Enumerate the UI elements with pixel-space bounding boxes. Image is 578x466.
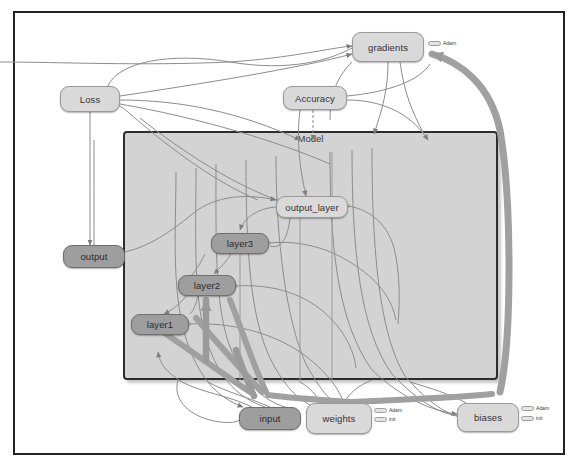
node-weights[interactable]: weights — [306, 403, 372, 434]
graph-edges — [0, 0, 578, 466]
node-label: layer2 — [194, 280, 220, 291]
annotation-label: Adam — [389, 408, 402, 413]
pill-icon — [428, 41, 441, 46]
node-label: weights — [323, 413, 356, 424]
annotation-biases-init[interactable]: init — [521, 416, 542, 421]
annotation-biases-adam[interactable]: Adam — [521, 406, 549, 411]
node-label: biases — [474, 412, 502, 423]
node-label: Loss — [80, 94, 100, 105]
pill-icon — [521, 406, 534, 411]
pill-icon — [374, 417, 387, 422]
node-gradients[interactable]: gradients — [352, 32, 424, 62]
annotation-gradients-adam[interactable]: Adam — [428, 41, 456, 46]
node-label: layer1 — [147, 319, 173, 330]
pill-icon — [521, 416, 534, 421]
node-label: gradients — [368, 42, 408, 53]
node-output-layer[interactable]: output_layer — [276, 196, 348, 218]
annotation-weights-init[interactable]: init — [374, 417, 395, 422]
node-layer3[interactable]: layer3 — [211, 233, 269, 254]
node-input[interactable]: input — [239, 407, 301, 430]
annotation-weights-adam[interactable]: Adam — [374, 408, 402, 413]
node-label: input — [259, 413, 280, 424]
node-layer1[interactable]: layer1 — [131, 314, 189, 335]
node-accuracy[interactable]: Accuracy — [283, 86, 347, 110]
node-label: output_layer — [285, 202, 339, 213]
node-biases[interactable]: biases — [457, 403, 519, 432]
node-output[interactable]: output — [63, 245, 125, 268]
graph-visualization-root: Model — [0, 0, 578, 466]
node-label: layer3 — [227, 238, 253, 249]
annotation-label: Adam — [536, 406, 549, 411]
annotation-label: Adam — [443, 41, 456, 46]
node-layer2[interactable]: layer2 — [178, 275, 236, 296]
pill-icon — [374, 408, 387, 413]
annotation-label: init — [389, 417, 395, 422]
node-loss[interactable]: Loss — [60, 86, 120, 112]
node-label: Accuracy — [295, 93, 335, 104]
annotation-label: init — [536, 416, 542, 421]
node-label: output — [80, 251, 107, 262]
